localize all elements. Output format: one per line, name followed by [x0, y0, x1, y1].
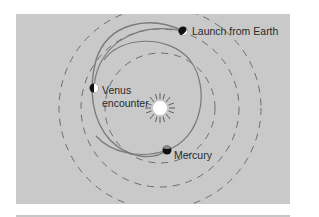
venus-marker-icon — [90, 84, 99, 93]
diagram-panel — [16, 14, 290, 204]
orbital-diagram: Launch from Earth Venus encounter Mercur… — [0, 0, 319, 217]
mercury-marker-icon — [163, 146, 172, 155]
venus-label-line1: Venus — [102, 84, 131, 96]
venus-label-line2: encounter — [102, 97, 149, 109]
launch-label: Launch from Earth — [192, 25, 279, 37]
mercury-label: Mercury — [174, 149, 213, 161]
